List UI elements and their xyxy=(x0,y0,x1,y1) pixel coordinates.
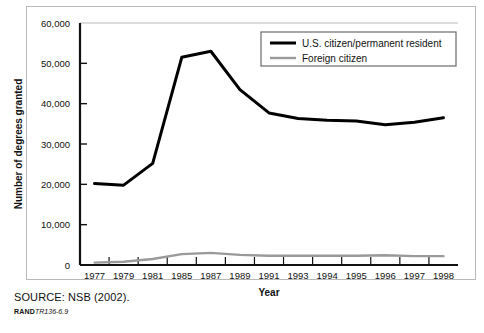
x-tick-label: 1989 xyxy=(229,270,250,281)
legend: U.S. citizen/permanent residentForeign c… xyxy=(261,32,456,66)
y-axis-tick-labels: 010,00020,00030,00040,00050,00060,000 xyxy=(41,18,70,271)
x-axis-title: Year xyxy=(258,287,279,298)
y-tick-label: 30,000 xyxy=(41,139,70,150)
figure-container: 010,00020,00030,00040,00050,00060,000 19… xyxy=(0,0,484,333)
x-axis-tick-labels: 1977197919811985198719891991199319941995… xyxy=(84,270,454,281)
series-line-foreign-citizen xyxy=(95,253,444,263)
line-chart: 010,00020,00030,00040,00050,00060,000 19… xyxy=(0,0,484,333)
data-series-group xyxy=(95,51,444,262)
x-tick-label: 1996 xyxy=(375,270,396,281)
y-axis-title: Number of degrees granted xyxy=(13,79,24,210)
source-note: SOURCE: NSB (2002). xyxy=(14,291,130,303)
rand-label: RAND xyxy=(14,308,35,315)
y-tick-label: 40,000 xyxy=(41,98,70,109)
x-tick-label: 1985 xyxy=(171,270,192,281)
x-tick-label: 1994 xyxy=(317,270,338,281)
y-tick-label: 60,000 xyxy=(41,18,70,29)
x-tick-label: 1987 xyxy=(200,270,221,281)
y-tick-label: 10,000 xyxy=(41,219,70,230)
y-tick-label: 20,000 xyxy=(41,179,70,190)
series-line-us-citizen xyxy=(95,51,444,185)
x-tick-label: 1998 xyxy=(433,270,454,281)
x-tick-label: 1977 xyxy=(84,270,105,281)
x-tick-label: 1995 xyxy=(346,270,367,281)
x-tick-label: 1993 xyxy=(288,270,309,281)
y-tick-label: 0 xyxy=(65,260,70,271)
legend-label-us-citizen: U.S. citizen/permanent resident xyxy=(302,38,442,49)
x-tick-label: 1991 xyxy=(258,270,279,281)
y-tick-label: 50,000 xyxy=(41,58,70,69)
rand-doc-number: TR136-6.9 xyxy=(35,308,68,315)
rand-document-code: RANDTR136-6.9 xyxy=(14,308,68,315)
x-tick-label: 1997 xyxy=(404,270,425,281)
x-tick-label: 1979 xyxy=(113,270,134,281)
x-tick-label: 1981 xyxy=(142,270,163,281)
legend-label-foreign-citizen: Foreign citizen xyxy=(302,53,367,64)
